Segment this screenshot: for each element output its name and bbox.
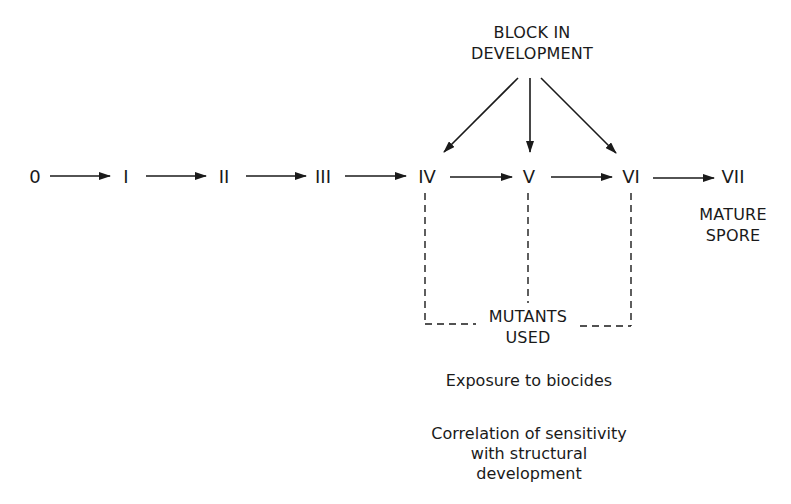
block-in-development-label: BLOCK IN DEVELOPMENT [471, 22, 593, 64]
block-label-line2: DEVELOPMENT [471, 43, 593, 64]
block-arrows [444, 78, 616, 153]
block-arrow-to-VI [541, 78, 616, 153]
mutants-used-label: MUTANTS USED [486, 306, 570, 348]
stage-I: I [123, 167, 128, 187]
correlation-line3: development [431, 464, 626, 484]
diagram-lines [0, 0, 791, 504]
mutants-label-line2: USED [486, 327, 570, 348]
exposure-note: Exposure to biocides [446, 371, 612, 391]
correlation-line1: Correlation of sensitivity [431, 424, 626, 444]
mature-spore-label: MATURE SPORE [699, 204, 766, 246]
mature-label-line2: SPORE [699, 225, 766, 246]
block-label-line1: BLOCK IN [471, 22, 593, 43]
correlation-line2: with structural [431, 444, 626, 464]
block-arrow-to-IV [444, 78, 518, 152]
stage-III: III [315, 167, 331, 187]
mutants-label-line1: MUTANTS [486, 306, 570, 327]
mature-label-line1: MATURE [699, 204, 766, 225]
stage-II: II [219, 167, 230, 187]
stage-IV: IV [418, 167, 436, 187]
stage-VI: VI [622, 167, 640, 187]
stage-V: V [523, 167, 535, 187]
stage-arrows [50, 176, 714, 178]
stage-0: 0 [29, 167, 40, 187]
correlation-note: Correlation of sensitivity with structur… [431, 424, 626, 484]
sporulation-diagram: BLOCK IN DEVELOPMENT 0 I II III IV V VI … [0, 0, 791, 504]
stage-VII: VII [722, 167, 745, 187]
